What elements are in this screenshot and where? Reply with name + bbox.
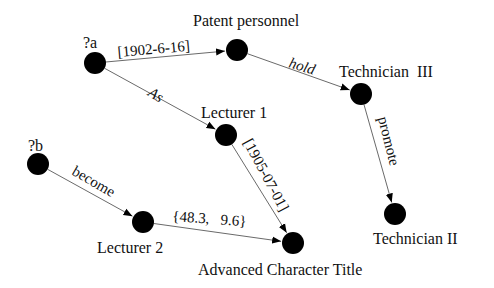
- node-patent-personnel: Patent personnel: [193, 12, 300, 61]
- node-lecturer-2-label: Lecturer 2: [97, 239, 163, 256]
- node-technician-ii: Technician II: [373, 203, 458, 247]
- node-technician-ii-circle: [384, 203, 406, 225]
- edge-label-1902-6-16: [1902-6-16]: [117, 38, 191, 60]
- node-b-circle: [27, 153, 49, 175]
- node-lecturer-1-label: Lecturer 1: [201, 104, 267, 121]
- node-technician-ii-label: Technician II: [373, 230, 458, 247]
- node-advanced-character-title: Advanced Character Title: [198, 232, 362, 278]
- node-a-circle: [84, 52, 106, 74]
- node-patent-personnel-circle: [226, 39, 248, 61]
- node-technician-iii-label: Technician III: [339, 63, 433, 80]
- edge-label-as: As: [145, 83, 167, 105]
- node-technician-iii-circle: [350, 83, 372, 105]
- edge-label-48-3-9-6: {48.3, 9.6}: [172, 208, 247, 229]
- node-lecturer-2: Lecturer 2: [97, 211, 163, 256]
- node-a-label: ?a: [83, 34, 97, 51]
- node-advanced-character-title-circle: [282, 232, 304, 254]
- node-advanced-character-title-label: Advanced Character Title: [198, 261, 362, 278]
- node-a: ?a: [83, 34, 106, 74]
- node-b-label: ?b: [28, 137, 43, 154]
- node-lecturer-2-circle: [132, 211, 154, 233]
- knowledge-graph-diagram: [1902-6-16] hold As promote [1905-07-01]…: [0, 0, 494, 288]
- node-patent-personnel-label: Patent personnel: [193, 12, 300, 30]
- edge-label-1905-07-01: [1905-07-01]: [240, 136, 292, 214]
- node-b: ?b: [27, 137, 49, 175]
- node-lecturer-1-circle: [215, 124, 237, 146]
- node-technician-iii: Technician III: [339, 63, 433, 105]
- edge-label-hold: hold: [287, 55, 318, 78]
